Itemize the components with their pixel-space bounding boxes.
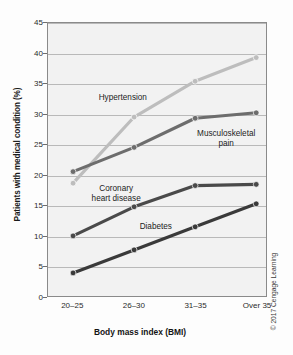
y-tick-label: 5: [24, 262, 43, 271]
data-point-marker: [192, 224, 198, 230]
plot-inner: HypertensionMusculoskeletalpainCoronaryh…: [48, 23, 266, 296]
y-tick-mark: [43, 83, 47, 84]
y-tick-mark: [43, 236, 47, 237]
x-tick-label: 31–35: [184, 301, 206, 310]
data-point-marker: [131, 144, 137, 150]
y-tick-label: 10: [24, 231, 43, 240]
data-point-marker: [192, 78, 198, 84]
y-tick-label: 30: [24, 109, 43, 118]
data-point-marker: [131, 204, 137, 210]
series-layer: [48, 23, 266, 296]
y-tick-mark: [43, 144, 47, 145]
y-tick-label: 0: [24, 293, 43, 302]
series-annotation: Coronaryheart disease: [92, 184, 141, 204]
copyright-notice: © 2017 Cengage Learning: [270, 232, 277, 352]
data-point-marker: [192, 183, 198, 189]
x-tick-label: 20–25: [61, 301, 83, 310]
y-tick-mark: [43, 53, 47, 54]
y-tick-mark: [43, 266, 47, 267]
series-annotation: Musculoskeletalpain: [197, 129, 255, 149]
data-point-marker: [70, 180, 76, 186]
y-tick-label: 15: [24, 201, 43, 210]
y-tick-label: 45: [24, 18, 43, 27]
plot-area: HypertensionMusculoskeletalpainCoronaryh…: [47, 22, 267, 297]
data-point-marker: [253, 201, 259, 207]
y-tick-mark: [43, 205, 47, 206]
chart-figure: Patients with medical condition (%) Hype…: [0, 0, 293, 355]
y-tick-mark: [43, 22, 47, 23]
data-point-marker: [131, 114, 137, 120]
data-point-marker: [70, 270, 76, 276]
annotation-line: Musculoskeletal: [197, 129, 255, 139]
data-point-marker: [70, 233, 76, 239]
x-tick-label: 26–30: [123, 301, 145, 310]
data-point-marker: [131, 247, 137, 253]
y-tick-label: 20: [24, 170, 43, 179]
data-point-marker: [253, 55, 259, 61]
annotation-line: Coronary: [92, 184, 141, 194]
data-point-marker: [192, 115, 198, 121]
y-tick-label: 35: [24, 79, 43, 88]
y-tick-mark: [43, 175, 47, 176]
y-axis-title: Patients with medical condition (%): [13, 55, 22, 255]
series-line: [73, 204, 256, 273]
data-point-marker: [253, 110, 259, 116]
x-axis-title: Body mass index (BMI): [0, 327, 280, 337]
y-tick-label: 25: [24, 140, 43, 149]
series-annotation: Diabetes: [140, 222, 172, 232]
x-tick-label: Over 35: [243, 301, 271, 310]
series-annotation: Hypertension: [99, 93, 147, 103]
annotation-line: heart disease: [92, 194, 141, 204]
y-tick-mark: [43, 114, 47, 115]
y-tick-label: 40: [24, 48, 43, 57]
y-tick-mark: [43, 297, 47, 298]
series-line: [73, 58, 256, 184]
data-point-marker: [70, 169, 76, 175]
annotation-line: pain: [197, 139, 255, 149]
data-point-marker: [253, 181, 259, 187]
